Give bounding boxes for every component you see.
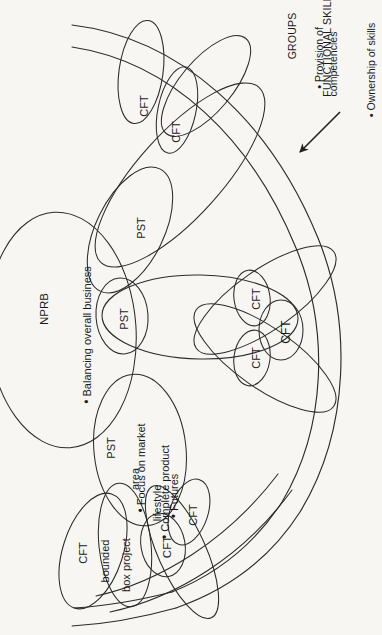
cft-lower-1-label-text: CFT — [161, 536, 173, 558]
cft-right-upper-label: CFT — [250, 288, 262, 309]
cft-bounded-line-2: bounded — [99, 540, 111, 583]
nprb-label-text: NPRB — [38, 293, 50, 325]
cft-bounded-line-3: box project — [120, 538, 132, 592]
cft-top-long-ellipse — [70, 59, 290, 291]
annotation-bullet-1-line-1: • Provision of — [313, 27, 325, 89]
cft-lower-1-label: CFT — [161, 536, 173, 558]
annotation-bullet-1-text-b: competencies — [327, 32, 339, 97]
cft-top-long-tilt-ellipse — [146, 22, 266, 150]
nprb-bullet-1-text: Balancing overall business — [81, 266, 93, 396]
cft-top-2-label: CFT — [170, 121, 182, 142]
cft-bounded-line-2-text: bounded — [99, 540, 111, 583]
cft-right-lower-label-text: CFT — [250, 347, 262, 368]
cft-right-mid-label: CFT — [279, 320, 293, 343]
right-cluster-long-ellipse-lower — [179, 285, 351, 431]
nprb-bullet-1: • Balancing overall business — [80, 266, 94, 404]
cft-bounded-label-text: CFT — [77, 542, 89, 563]
cft-bounded-label: CFT — [77, 542, 89, 563]
annotation-block: FUNCTIONAL SKILL GROUPS • Provision of c… — [300, 6, 380, 116]
pst-bullet-1-line-2: area — [129, 468, 141, 490]
pst-bullet-3-text: Futures — [168, 474, 180, 511]
annotation-bullet-2-line-1: • Ownership of skills — [365, 23, 377, 117]
pst-bullet-2-text-b: lifestyle — [151, 485, 163, 522]
cft-top-1-label: CFT — [138, 95, 150, 116]
pst-bullet-1-text-a: Focus on market — [135, 423, 147, 505]
annotation-bullet-2-text: Ownership of skills — [365, 23, 377, 111]
nprb-ellipse — [0, 207, 144, 453]
cft-lower-2-label-text: CFT — [187, 504, 199, 525]
cft-right-lower-label: CFT — [250, 347, 262, 368]
pst-upper-label: PST — [135, 217, 147, 238]
pst-bullet-1-text-b: area — [129, 468, 141, 490]
pst-center-label: PST — [118, 308, 130, 329]
cft-top-1-label-text: CFT — [138, 95, 150, 116]
annotation-bullet-1-line-2: competencies — [327, 32, 339, 97]
pst-upper-label-text: PST — [135, 217, 147, 238]
pst-main-label: PST — [105, 437, 117, 458]
central-horizontal-ellipse — [101, 273, 298, 360]
cft-bounded-line-3-text: box project — [120, 538, 132, 592]
annotation-arrow — [300, 112, 340, 152]
nprb-label: NPRB — [38, 293, 50, 325]
annotation-bullet-1-text-a: Provision of — [313, 27, 325, 82]
pst-bullet-2-line-2: lifestyle — [151, 485, 163, 522]
cft-lower-2-label: CFT — [187, 504, 199, 525]
cft-top-2-label-text: CFT — [170, 121, 182, 142]
pst-main-label-text: PST — [105, 437, 117, 458]
cft-right-mid-label-text: CFT — [279, 320, 293, 343]
pst-center-label-text: PST — [118, 308, 130, 329]
diagram-canvas: FUNCTIONAL SKILL GROUPS • Provision of c… — [0, 0, 382, 635]
annotation-heading-2: GROUPS — [286, 13, 298, 60]
pst-bullet-3: • Futures — [167, 474, 181, 519]
cft-right-upper-label-text: CFT — [250, 288, 262, 309]
annotation-heading-line2: GROUPS — [286, 13, 298, 60]
